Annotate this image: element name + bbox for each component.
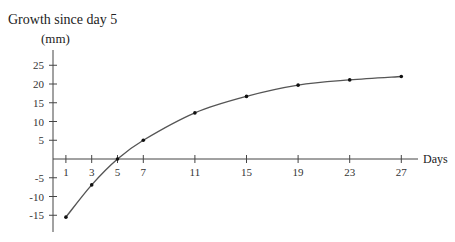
x-tick-label: 7 bbox=[141, 166, 147, 178]
y-tick-label: 5 bbox=[39, 134, 45, 146]
x-tick-label: 5 bbox=[115, 166, 121, 178]
data-point bbox=[296, 83, 300, 87]
y-tick-label: -10 bbox=[29, 191, 44, 203]
y-tick-label: 15 bbox=[33, 97, 45, 109]
x-tick-label: 19 bbox=[293, 166, 305, 178]
x-tick-label: 1 bbox=[63, 166, 69, 178]
data-point bbox=[90, 183, 94, 187]
data-point bbox=[348, 78, 352, 82]
ticks: 13571115192327252015105-5-10-15 bbox=[29, 59, 407, 221]
x-tick-label: 23 bbox=[344, 166, 356, 178]
x-axis-label: Days bbox=[423, 152, 448, 166]
y-tick-label: -5 bbox=[35, 172, 45, 184]
data-point bbox=[116, 157, 120, 161]
x-tick-label: 27 bbox=[396, 166, 408, 178]
x-tick-label: 11 bbox=[190, 166, 201, 178]
y-tick-label: 10 bbox=[33, 116, 45, 128]
y-tick-label: -15 bbox=[29, 209, 44, 221]
growth-curve bbox=[66, 77, 401, 218]
data-point bbox=[245, 95, 249, 99]
x-tick-label: 15 bbox=[241, 166, 253, 178]
axes bbox=[53, 50, 418, 232]
data-points bbox=[64, 75, 403, 219]
data-point bbox=[400, 75, 404, 79]
y-tick-label: 25 bbox=[33, 59, 45, 71]
y-tick-label: 20 bbox=[33, 78, 45, 90]
x-tick-label: 3 bbox=[89, 166, 95, 178]
data-point bbox=[193, 111, 197, 115]
data-point bbox=[64, 215, 68, 219]
chart-canvas: 13571115192327252015105-5-10-15 Days bbox=[0, 0, 455, 242]
data-point bbox=[142, 138, 146, 142]
